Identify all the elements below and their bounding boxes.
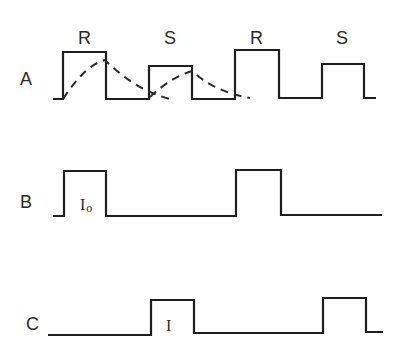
- row-c-label: C: [26, 314, 39, 334]
- pulse-label-subscript: o: [86, 201, 92, 215]
- pulse-label-r1: R: [78, 28, 91, 48]
- row-a-label: A: [20, 69, 32, 89]
- row-a: A R S R S: [20, 28, 376, 99]
- pulse-label-r2: R: [250, 28, 263, 48]
- pulse-label-i: I: [80, 196, 85, 213]
- pulse-label-s1: S: [164, 28, 176, 48]
- pulse-label-i: I: [166, 317, 171, 334]
- row-b-label: B: [20, 192, 32, 212]
- pulse-label-s2: S: [336, 28, 348, 48]
- waveform-c: [48, 298, 383, 335]
- waveform-b: [53, 170, 382, 216]
- waveform-a: [53, 50, 376, 99]
- row-b: B Io: [20, 170, 382, 216]
- pulse-label-i0: Io: [80, 196, 92, 215]
- row-c: C I: [26, 298, 383, 335]
- pulse-timing-diagram: A R S R S B Io C I: [0, 0, 404, 356]
